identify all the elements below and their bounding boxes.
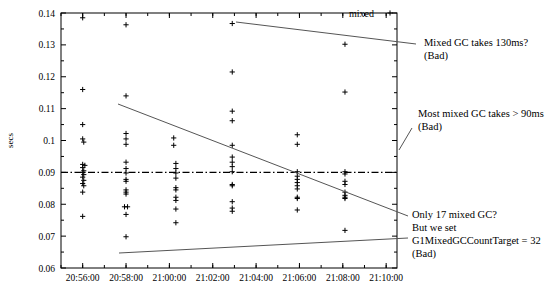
x-tick-label: 21:04:00: [239, 273, 273, 283]
anno-17gc-line: But we set: [412, 222, 456, 233]
data-point: [230, 209, 235, 214]
data-point: [173, 166, 178, 171]
data-point: [173, 206, 178, 211]
x-tick-label: 21:08:00: [326, 273, 360, 283]
y-tick-label: 0.1: [43, 136, 55, 146]
y-tick-label: 0.09: [38, 168, 55, 178]
anno-130ms: Mixed GC takes 130ms?(Bad): [236, 22, 528, 62]
anno-lowest: [119, 238, 408, 253]
data-point: [342, 228, 347, 233]
data-point: [295, 196, 300, 201]
data-point: [80, 136, 85, 141]
data-point: [123, 136, 128, 141]
data-point: [295, 132, 300, 137]
anno-130ms-line: Mixed GC takes 130ms?: [424, 37, 528, 48]
y-tick-label: 0.11: [39, 104, 56, 114]
y-tick-label: 0.07: [38, 232, 55, 242]
data-point: [125, 204, 130, 209]
data-point: [123, 170, 128, 175]
data-point: [80, 214, 85, 219]
data-point: [342, 182, 347, 187]
data-point: [123, 166, 128, 171]
y-axis-title: secs: [5, 133, 15, 148]
data-point: [295, 186, 300, 191]
data-point: [342, 42, 347, 47]
y-tick-label: 0.13: [38, 40, 55, 50]
anno-90ms-line: (Bad): [418, 121, 442, 133]
anno-90ms-line: Most mixed GC takes > 90ms: [418, 108, 544, 119]
data-point: [230, 183, 235, 188]
data-point: [80, 15, 85, 20]
data-point: [173, 161, 178, 166]
data-point: [173, 198, 178, 203]
data-point: [295, 142, 300, 147]
axis-ticks: [61, 13, 397, 268]
anno-17gc: Only 17 mixed GC?But we setG1MixedGCCoun…: [118, 104, 541, 260]
data-point: [173, 176, 178, 181]
x-axis-tick-labels: 20:56:0020:58:0021:00:0021:02:0021:04:00…: [66, 273, 404, 283]
scatter-chart-svg: 0.060.070.080.090.10.110.120.130.14 20:5…: [0, 0, 554, 307]
data-point: [81, 139, 86, 144]
data-points-mixed: [80, 15, 347, 239]
data-point: [80, 122, 85, 127]
anno-17gc-line: G1MixedGCCountTarget = 32: [412, 235, 541, 246]
data-point: [123, 212, 128, 217]
anno-90ms: Most mixed GC takes > 90ms(Bad): [399, 108, 544, 150]
data-point: [81, 178, 86, 183]
x-tick-label: 21:06:00: [283, 273, 317, 283]
data-point: [123, 131, 128, 136]
data-point: [230, 160, 235, 165]
y-axis-title-text: secs: [5, 133, 15, 148]
y-tick-label: 0.06: [38, 264, 55, 274]
data-point: [295, 207, 300, 212]
y-axis-tick-labels: 0.060.070.080.090.10.110.120.130.14: [38, 9, 55, 274]
data-point: [230, 164, 235, 169]
data-point: [80, 175, 85, 180]
data-point: [123, 234, 128, 239]
data-point: [230, 21, 235, 26]
data-point: [230, 154, 235, 159]
x-tick-label: 21:00:00: [152, 273, 186, 283]
y-tick-label: 0.14: [38, 9, 55, 19]
data-point: [342, 89, 347, 94]
data-point: [230, 199, 235, 204]
x-tick-label: 21:02:00: [196, 273, 230, 283]
data-point: [173, 170, 178, 175]
anno-17gc-line: (Bad): [412, 248, 436, 260]
data-point: [80, 87, 85, 92]
x-tick-label: 21:10:00: [369, 273, 403, 283]
data-point: [171, 143, 176, 148]
y-tick-label: 0.12: [38, 72, 55, 82]
x-tick-label: 20:58:00: [109, 273, 143, 283]
data-point: [123, 160, 128, 165]
legend-label-mixed: mixed: [349, 8, 374, 19]
data-point: [230, 118, 235, 123]
data-point: [230, 169, 235, 174]
y-tick-label: 0.08: [38, 200, 55, 210]
data-point: [173, 220, 178, 225]
data-point: [230, 109, 235, 114]
x-tick-label: 20:56:00: [66, 273, 100, 283]
plot-frame: [61, 13, 397, 268]
data-point: [230, 69, 235, 74]
anno-17gc-line: Only 17 mixed GC?: [412, 209, 497, 220]
data-point: [171, 135, 176, 140]
anno-130ms-line: (Bad): [424, 50, 448, 62]
data-point: [123, 142, 128, 147]
annotations: Mixed GC takes 130ms?(Bad)Most mixed GC …: [118, 22, 544, 260]
data-point: [80, 190, 85, 195]
data-point: [123, 93, 128, 98]
data-point: [342, 196, 347, 201]
chart-container: 0.060.070.080.090.10.110.120.130.14 20:5…: [0, 0, 554, 307]
data-point: [123, 22, 128, 27]
